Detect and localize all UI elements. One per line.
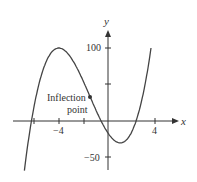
- annotation: Inflection: [47, 92, 86, 103]
- x-label: x: [180, 115, 186, 127]
- y-arrow-icon: [105, 30, 111, 37]
- x-arrow-icon: [172, 118, 179, 124]
- y-label: y: [103, 15, 109, 27]
- inflection-point: [88, 95, 92, 99]
- y-tick-label: −50: [84, 152, 100, 163]
- y-tick-label: 100: [86, 42, 101, 53]
- annotation: point: [67, 104, 88, 115]
- chart: x y −4 4 100 −50 Inflection point: [0, 0, 197, 182]
- x-tick-label: −4: [53, 125, 64, 136]
- plot: x y −4 4 100 −50 Inflection point: [0, 0, 197, 182]
- x-tick-label: 4: [152, 125, 157, 136]
